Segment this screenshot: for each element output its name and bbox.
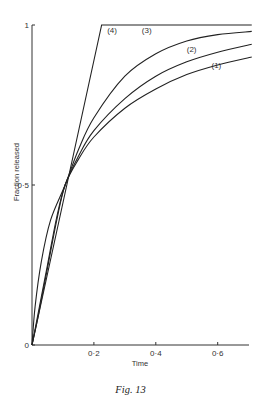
figure-caption: Fig. 13: [0, 384, 261, 395]
curve-label: (3): [142, 26, 152, 35]
x-tick-label: 0·2: [88, 349, 100, 358]
curve-label: (4): [107, 26, 117, 35]
x-tick-label: 0·6: [212, 349, 224, 358]
curve-label: (1): [212, 61, 222, 70]
curves: [32, 25, 252, 345]
curve-3: [32, 31, 252, 345]
y-axis-title: Fraction released: [12, 143, 21, 201]
y-tick-label: 1: [25, 21, 30, 30]
ticks: 0·20·40·600·51: [17, 21, 224, 358]
release-fraction-chart: 0·20·40·600·51 (1)(2)(3)(4) Time Fractio…: [0, 0, 261, 380]
x-tick-label: 0·4: [150, 349, 162, 358]
curve-labels: (1)(2)(3)(4): [107, 26, 221, 70]
x-axis-title: Time: [132, 359, 148, 368]
y-tick-label: 0: [25, 341, 30, 350]
curve-1: [32, 57, 252, 345]
curve-label: (2): [187, 45, 197, 54]
